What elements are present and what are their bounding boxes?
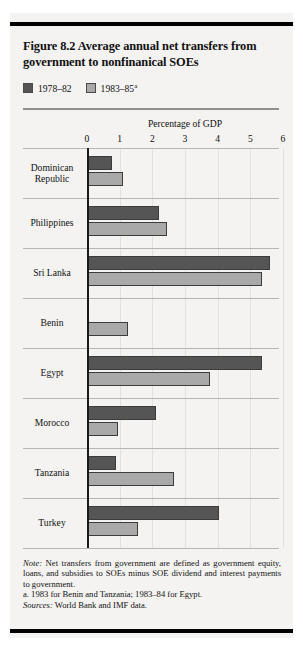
bar-dominican-republic-1978-82	[87, 156, 112, 170]
legend-swatch-1983-85	[86, 83, 96, 93]
note-paragraph: Note: Net transfers from government are …	[23, 558, 281, 589]
category-label-philippines: Philippines	[23, 198, 81, 248]
bar-group	[87, 148, 283, 198]
bar-tanzania-1978-82	[87, 456, 116, 470]
x-axis-title: Percentage of GDP	[87, 118, 283, 129]
bar-benin-1983-85	[87, 322, 128, 336]
bar-group	[87, 248, 283, 298]
x-axis-ticks: 0123456	[87, 133, 283, 146]
bar-group	[87, 498, 283, 548]
legend-label-1983-85: 1983–85a	[101, 82, 138, 94]
bar-group	[87, 198, 283, 248]
category-label-egypt: Egypt	[23, 348, 81, 398]
chart-row: Egypt	[23, 348, 283, 398]
bar-philippines-1978-82	[87, 206, 159, 220]
chart-row: DominicanRepublic	[23, 148, 283, 198]
bar-sri-lanka-1978-82	[87, 256, 270, 270]
x-tick-4: 4	[215, 133, 220, 144]
bar-philippines-1983-85	[87, 222, 167, 236]
legend-footnote-marker: a	[134, 82, 137, 90]
bar-group	[87, 448, 283, 498]
bar-group	[87, 348, 283, 398]
footnote-a: a. 1983 for Benin and Tanzania; 1983–84 …	[23, 589, 281, 599]
top-rule	[10, 22, 293, 26]
note-label: Note:	[23, 558, 42, 568]
x-tick-1: 1	[117, 133, 122, 144]
gridline-6	[283, 148, 284, 548]
bar-turkey-1978-82	[87, 506, 219, 520]
figure-inner: Figure 8.2 Average annual net transfers …	[10, 30, 293, 630]
category-label-dominican-republic: DominicanRepublic	[23, 148, 81, 198]
plot-area: DominicanRepublicPhilippinesSri LankaBen…	[23, 148, 283, 548]
category-label-sri-lanka: Sri Lanka	[23, 248, 81, 298]
plot-bottom-rule	[23, 548, 279, 549]
category-label-tanzania: Tanzania	[23, 448, 81, 498]
category-label-benin: Benin	[23, 298, 81, 348]
chart-legend: 1978–82 1983–85a	[23, 82, 137, 94]
legend-item-1983-85: 1983–85a	[86, 82, 138, 94]
bar-morocco-1978-82	[87, 406, 156, 420]
category-label-line: Tanzania	[35, 467, 69, 479]
chart-row: Benin	[23, 298, 283, 348]
sources-label: Sources:	[23, 600, 53, 610]
bar-turkey-1983-85	[87, 522, 138, 536]
chart-row: Turkey	[23, 498, 283, 548]
category-label-line: Sri Lanka	[33, 267, 71, 279]
zero-axis-line	[87, 148, 89, 548]
bar-group	[87, 398, 283, 448]
x-tick-0: 0	[85, 133, 90, 144]
category-label-morocco: Morocco	[23, 398, 81, 448]
x-tick-5: 5	[248, 133, 253, 144]
category-label-line: Dominican	[31, 162, 74, 174]
figure-notes: Note: Net transfers from government are …	[23, 558, 281, 610]
category-label-turkey: Turkey	[23, 498, 81, 548]
bar-sri-lanka-1983-85	[87, 272, 262, 286]
bar-tanzania-1983-85	[87, 472, 174, 486]
chart-row: Tanzania	[23, 448, 283, 498]
legend-item-1978-82: 1978–82	[23, 83, 72, 94]
bar-dominican-republic-1983-85	[87, 172, 123, 186]
x-tick-2: 2	[150, 133, 155, 144]
category-label-line: Turkey	[38, 517, 65, 529]
x-tick-6: 6	[281, 133, 286, 144]
bar-egypt-1983-85	[87, 372, 210, 386]
x-tick-3: 3	[183, 133, 188, 144]
chart-row: Sri Lanka	[23, 248, 283, 298]
bar-egypt-1978-82	[87, 356, 262, 370]
bar-group	[87, 298, 283, 348]
note-text: Net transfers from government are define…	[23, 558, 281, 589]
category-label-line: Philippines	[30, 217, 73, 229]
legend-label-1978-82: 1978–82	[38, 83, 72, 94]
legend-swatch-1978-82	[23, 83, 33, 93]
figure-title: Figure 8.2 Average annual net transfers …	[23, 39, 281, 70]
bar-morocco-1983-85	[87, 422, 118, 436]
category-label-line: Benin	[41, 317, 64, 329]
category-label-line: Egypt	[41, 367, 64, 379]
sources-text: World Bank and IMF data.	[53, 600, 147, 610]
sources-paragraph: Sources: World Bank and IMF data.	[23, 600, 281, 610]
category-label-line: Republic	[35, 173, 70, 185]
header-separator	[23, 108, 279, 110]
legend-label-1983-85-text: 1983–85	[101, 83, 135, 94]
chart-row: Morocco	[23, 398, 283, 448]
chart-row: Philippines	[23, 198, 283, 248]
category-label-line: Morocco	[35, 417, 70, 429]
